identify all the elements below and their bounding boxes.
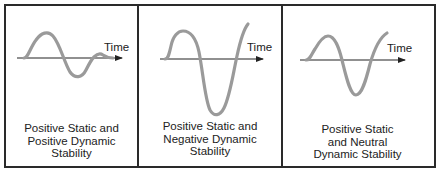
- caption-line: Dynamic Stability: [283, 148, 432, 161]
- caption-line: Negative Dynamic: [139, 133, 281, 146]
- damped-oscillation-curve: [24, 33, 113, 77]
- caption-line: Positive Dynamic: [6, 135, 137, 148]
- caption-line: Stability: [6, 147, 137, 160]
- panel-3-caption: Positive Static and Neutral Dynamic Stab…: [283, 123, 432, 161]
- neutral-oscillation-curve: [306, 33, 387, 95]
- caption-line: Positive Static and: [139, 120, 281, 133]
- caption-line: Positive Static: [283, 123, 432, 136]
- panel-2-graph: Time: [160, 24, 272, 115]
- time-axis-label: Time: [104, 41, 129, 53]
- caption-line: Positive Static and: [6, 122, 137, 135]
- caption-line: Stability: [139, 145, 281, 158]
- panel-1-graph: Time: [17, 33, 129, 77]
- panel-1-caption: Positive Static and Positive Dynamic Sta…: [6, 122, 137, 160]
- time-axis-label: Time: [247, 41, 272, 53]
- panel-2-caption: Positive Static and Negative Dynamic Sta…: [139, 120, 281, 158]
- panel-3-graph: Time: [300, 33, 412, 95]
- divergent-oscillation-curve: [165, 24, 248, 115]
- caption-line: and Neutral: [283, 136, 432, 149]
- time-axis-label: Time: [387, 42, 412, 54]
